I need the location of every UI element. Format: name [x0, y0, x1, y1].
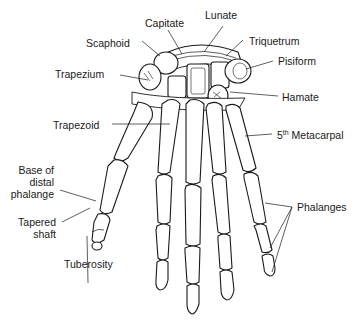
- label-capitate: Capitate: [145, 17, 184, 29]
- label-trapezium: Trapezium: [55, 68, 104, 80]
- label-lunate: Lunate: [205, 9, 237, 21]
- label-phalanges: Phalanges: [297, 201, 347, 213]
- hand-skeleton-drawing: [0, 0, 360, 324]
- hand-bones-diagram: Capitate Lunate Scaphoid Triquetrum Pisi…: [0, 0, 360, 324]
- label-5th-metacarpal: 5th Metacarpal: [277, 129, 344, 141]
- label-base-of-distal-phalange: Base ofdistalphalange: [4, 164, 54, 200]
- label-hamate: Hamate: [282, 91, 319, 103]
- label-tapered-shaft: Taperedshaft: [4, 216, 56, 240]
- label-pisiform: Pisiform: [278, 55, 316, 67]
- label-trapezoid: Trapezoid: [53, 119, 99, 131]
- label-scaphoid: Scaphoid: [86, 37, 130, 49]
- label-triquetrum: Triquetrum: [249, 35, 299, 47]
- label-tuberosity: Tuberosity: [64, 258, 113, 270]
